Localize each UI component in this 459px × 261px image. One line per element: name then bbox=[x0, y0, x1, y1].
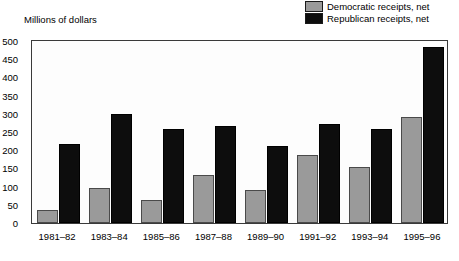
x-axis-tick-label: 1981–82 bbox=[39, 231, 76, 242]
bar-republican-1993-94 bbox=[371, 129, 392, 223]
legend-swatch-democratic-icon bbox=[305, 1, 323, 12]
x-axis-tick-label: 1995–96 bbox=[403, 231, 440, 242]
y-axis-tick-label: 250 bbox=[2, 128, 18, 137]
y-axis-tick-label: 100 bbox=[2, 182, 18, 191]
y-axis-tick-label: 350 bbox=[2, 91, 18, 100]
legend-item-democratic: Democratic receipts, net bbox=[305, 1, 455, 12]
x-axis: 1981–821983–841985–861987–881989–901991–… bbox=[31, 231, 448, 245]
bar-republican-1985-86 bbox=[163, 129, 184, 223]
bar-democratic-1985-86 bbox=[141, 200, 162, 223]
legend-swatch-republican-icon bbox=[305, 13, 323, 24]
x-axis-tick-label: 1987–88 bbox=[195, 231, 232, 242]
bar-democratic-1995-96 bbox=[401, 117, 422, 223]
y-axis-tick-label: 50 bbox=[7, 200, 18, 209]
x-axis-tick-label: 1989–90 bbox=[247, 231, 284, 242]
bar-republican-1991-92 bbox=[319, 124, 340, 223]
y-axis-title: Millions of dollars bbox=[24, 14, 97, 25]
bar-democratic-1991-92 bbox=[297, 155, 318, 223]
bar-republican-1987-88 bbox=[215, 126, 236, 223]
y-axis: 050100150200250300350400450500 bbox=[0, 0, 31, 261]
bar-democratic-1987-88 bbox=[193, 175, 214, 223]
x-axis-tick-label: 1993–94 bbox=[351, 231, 388, 242]
legend-item-republican: Republican receipts, net bbox=[305, 13, 455, 24]
bar-democratic-1983-84 bbox=[89, 188, 110, 223]
y-axis-tick-label: 500 bbox=[2, 37, 18, 46]
x-axis-tick-label: 1985–86 bbox=[143, 231, 180, 242]
bar-republican-1981-82 bbox=[59, 144, 80, 223]
plot-area bbox=[32, 41, 447, 223]
y-axis-tick-label: 150 bbox=[2, 164, 18, 173]
bar-republican-1989-90 bbox=[267, 146, 288, 223]
legend-label-republican: Republican receipts, net bbox=[327, 14, 429, 24]
bar-republican-1983-84 bbox=[111, 114, 132, 223]
y-axis-tick-label: 0 bbox=[13, 219, 18, 228]
chart-legend: Democratic receipts, net Republican rece… bbox=[305, 1, 455, 25]
x-axis-tick-label: 1983–84 bbox=[91, 231, 128, 242]
bar-democratic-1993-94 bbox=[349, 167, 370, 223]
y-axis-tick-label: 200 bbox=[2, 146, 18, 155]
y-axis-tick-label: 300 bbox=[2, 109, 18, 118]
bar-democratic-1981-82 bbox=[37, 210, 58, 223]
x-axis-tick-label: 1991–92 bbox=[299, 231, 336, 242]
y-axis-tick-label: 450 bbox=[2, 55, 18, 64]
bar-republican-1995-96 bbox=[423, 47, 444, 223]
y-axis-tick-label: 400 bbox=[2, 73, 18, 82]
plot-frame bbox=[31, 40, 448, 224]
legend-label-democratic: Democratic receipts, net bbox=[327, 2, 429, 12]
bar-democratic-1989-90 bbox=[245, 190, 266, 223]
